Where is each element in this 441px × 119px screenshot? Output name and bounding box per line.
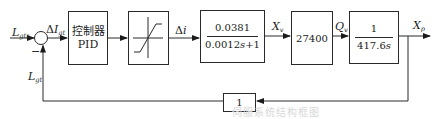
faint-caption: 伺服系统结构框图 <box>232 104 320 119</box>
gain-block: 27400 <box>291 11 333 65</box>
fraction-bar <box>207 36 257 37</box>
transfer-function-1-block: 0.0381 0.0012s+1 <box>200 10 265 63</box>
pid-controller-block: 控制器 PID <box>68 11 108 65</box>
tf2-numerator: 1 <box>371 23 377 35</box>
fraction-bar <box>355 37 393 38</box>
block-diagram: 控制器 PID 0.0381 0.0012s+1 27400 1 417.6s … <box>0 0 441 119</box>
delta-i-signal-label: Δi <box>175 25 186 36</box>
gain-value: 27400 <box>296 32 328 45</box>
input-signal-label: Lgtr <box>12 27 29 42</box>
tf1-denominator: 0.0012s+1 <box>205 39 260 51</box>
tf2-denominator: 417.6s <box>357 40 391 52</box>
tf1-numerator: 0.0381 <box>215 22 250 34</box>
xv-signal-label: Xv <box>272 21 284 36</box>
pid-label: PID <box>78 38 99 51</box>
xp-signal-label: Xp <box>413 20 425 35</box>
feedback-signal-label: Lgt <box>28 71 42 86</box>
error-signal-label: ΔIgt <box>46 24 65 39</box>
minus-sign: − <box>31 46 40 57</box>
transfer-function-2-block: 1 417.6s <box>349 11 399 64</box>
pid-label-cn: 控制器 <box>72 25 105 38</box>
qv-signal-label: Qv <box>335 21 348 36</box>
saturation-block <box>128 11 169 65</box>
